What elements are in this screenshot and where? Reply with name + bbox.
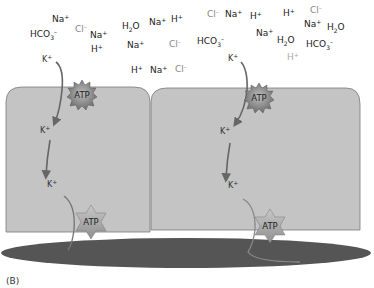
atp-label: ATP <box>83 217 98 227</box>
ion-label: HCO3– <box>197 35 224 48</box>
ion-label: HCO3– <box>30 28 57 41</box>
ion-label: Na+ <box>256 27 273 39</box>
ion-label: Cl– <box>175 63 187 75</box>
atp-pump-apical-right: ATP <box>244 83 274 113</box>
ion-label: H+ <box>250 10 262 22</box>
atp-label: ATP <box>74 90 89 100</box>
panel-label: (B) <box>6 276 19 286</box>
ion-label: Cl– <box>207 8 219 20</box>
ion-label: H+ <box>283 7 295 19</box>
ion-label: Cl– <box>169 38 181 50</box>
ion-label: Na+ <box>127 39 144 51</box>
ion-label: Cl– <box>75 23 87 35</box>
ion-label: Na+ <box>225 8 242 20</box>
ion-label: Na+ <box>149 16 166 28</box>
ion-label: H+ <box>91 43 103 55</box>
ion-label: HCO3– <box>306 38 333 51</box>
atp-label: ATP <box>262 221 277 231</box>
ion-label: H+ <box>287 51 299 63</box>
lumen-ions: Na+HCO3–Cl–Na+H+H2ONa+H+Na+Cl–H+Na+Cl–Cl… <box>30 4 345 76</box>
ion-label: H2O <box>327 22 345 34</box>
epithelial-transport-diagram: ATP ATP ATP ATP Na+HCO3–Cl–Na+H+H2ONa+H+… <box>0 0 374 288</box>
ion-label: H2O <box>122 21 140 33</box>
ion-label: H+ <box>171 13 183 25</box>
ion-label: Cl– <box>310 4 322 16</box>
potassium-label: K+ <box>42 53 52 65</box>
ion-label: Na+ <box>150 64 167 76</box>
ion-label: H2O <box>277 35 295 47</box>
atp-pump-apical-left: ATP <box>67 80 97 110</box>
atp-label: ATP <box>251 93 266 103</box>
ion-label: Na+ <box>304 18 321 30</box>
potassium-label: K+ <box>228 52 238 64</box>
ion-label: Na+ <box>52 13 69 25</box>
ion-label: H+ <box>131 64 143 76</box>
blood-vessel <box>1 238 371 268</box>
ion-label: Na+ <box>90 29 107 41</box>
